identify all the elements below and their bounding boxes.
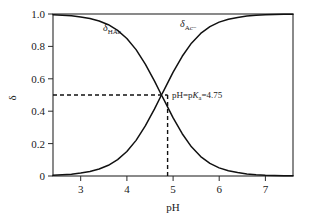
y-tick-label-3: 0.6 [31,73,45,85]
y-axis-title: δ [6,95,18,100]
curve-hac-subscript: HAc [108,28,121,36]
y-tick-label-4: 0.4 [31,105,45,117]
y-tick-label-1: 1.0 [31,8,45,20]
svg-text:δAc−: δAc− [180,18,197,32]
x-tick-label-1: 3 [78,183,84,195]
svg-text:pH=pKa=4.75: pH=pKa=4.75 [172,90,223,101]
x-axis-title: pH [166,201,180,213]
x-tick-marks [81,176,266,181]
y-tick-label-2: 0.8 [31,40,45,52]
curve-label-hac: δHAc [103,22,121,36]
y-tick-marks [48,14,53,176]
annot-prefix: pH=p [172,90,193,100]
x-tick-label-3: 5 [170,183,176,195]
x-tick-label-4: 6 [216,183,222,195]
y-tick-label-6: 0 [40,170,46,182]
curve-label-ac-minus: δAc− [180,18,197,32]
y-tick-label-5: 0.2 [31,138,45,150]
svg-text:δHAc: δHAc [103,22,121,36]
crossing-point-annotation: pH=pKa=4.75 [172,90,223,101]
x-tick-label-2: 4 [124,183,130,195]
x-tick-label-5: 7 [263,183,269,195]
curve-ac-subscript: Ac− [185,24,197,32]
distribution-diagram-figure: 1.0 0.8 0.6 0.4 0.2 0 3 4 5 6 7 pH δ δHA… [0,0,314,220]
annot-suffix: =4.75 [201,90,222,100]
chart-canvas: 1.0 0.8 0.6 0.4 0.2 0 3 4 5 6 7 pH δ δHA… [0,0,314,220]
